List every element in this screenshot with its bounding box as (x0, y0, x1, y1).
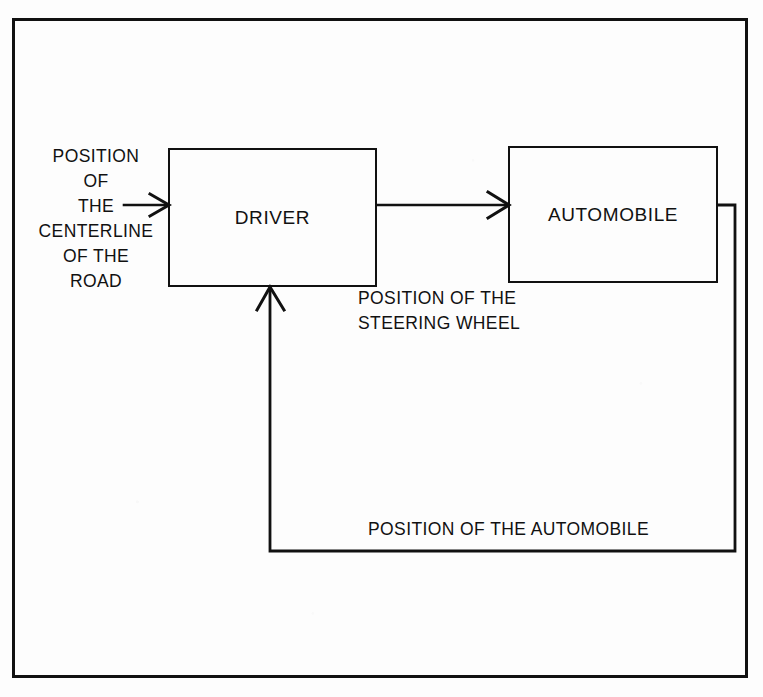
feedback-signal-label: POSITION OF THE AUTOMOBILE (368, 517, 649, 542)
forward-signal-label: POSITION OF THE STEERING WHEEL (358, 286, 520, 336)
input-signal-line-3: THE (22, 194, 170, 219)
input-signal-line-4: CENTERLINE (22, 219, 170, 244)
forward-signal-line-1: POSITION OF THE (358, 286, 520, 311)
input-signal-line-2: OF (22, 169, 170, 194)
input-signal-label: POSITION OF THE CENTERLINE OF THE ROAD (22, 144, 170, 294)
outer-border (12, 18, 748, 678)
block-automobile-label: AUTOMOBILE (548, 204, 678, 226)
diagram-page: DRIVER AUTOMOBILE POSITION OF THE CENTER… (0, 0, 763, 697)
block-driver-label: DRIVER (235, 207, 310, 229)
forward-signal-line-2: STEERING WHEEL (358, 311, 520, 336)
input-signal-line-6: ROAD (22, 269, 170, 294)
input-signal-line-1: POSITION (22, 144, 170, 169)
block-driver[interactable]: DRIVER (168, 148, 377, 287)
input-signal-line-5: OF THE (22, 244, 170, 269)
block-automobile[interactable]: AUTOMOBILE (508, 146, 718, 283)
